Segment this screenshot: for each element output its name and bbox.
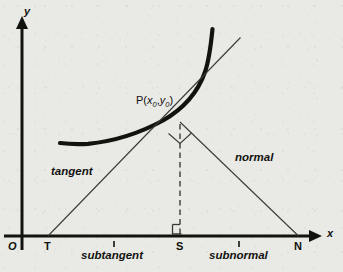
curve-path	[60, 29, 213, 144]
point-label-P-prefix: P(	[136, 94, 147, 106]
point-label-S: S	[176, 241, 183, 252]
subtangent-label: subtangent	[81, 250, 143, 262]
point-label-P-suffix: )	[169, 94, 173, 106]
origin-label: O	[8, 241, 17, 252]
point-label-T: T	[44, 241, 51, 252]
tangent-label: tangent	[51, 166, 93, 178]
normal-line	[180, 122, 299, 236]
diagram-svg	[0, 0, 343, 272]
normal-label: normal	[235, 152, 273, 164]
point-label-N: N	[294, 241, 302, 252]
point-label-P: P(x0,y0)	[136, 95, 173, 109]
tangent-line	[48, 38, 241, 237]
y-axis-label: y	[24, 6, 30, 17]
subnormal-label: subnormal	[209, 250, 268, 262]
figure-canvas: y x O T S N P(x0,y0) tangent normal subt…	[0, 0, 343, 272]
x-axis-label: x	[327, 228, 333, 239]
y-axis	[16, 16, 28, 250]
